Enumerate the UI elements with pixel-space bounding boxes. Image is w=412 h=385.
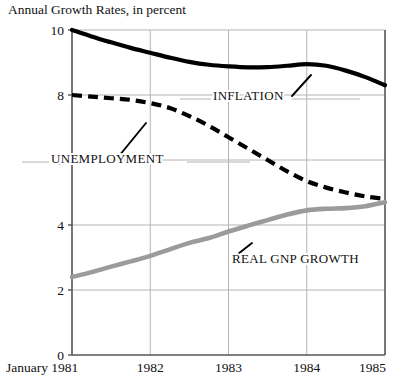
x-tick-label: January 1981 bbox=[6, 360, 78, 375]
x-tick-label: 1983 bbox=[215, 360, 242, 375]
chart-title: Annual Growth Rates, in percent bbox=[8, 2, 186, 17]
y-tick-label: 4 bbox=[57, 218, 64, 233]
y-tick-label: 8 bbox=[57, 88, 64, 103]
x-tick-label: 1982 bbox=[137, 360, 164, 375]
x-tick-label: 1984 bbox=[293, 360, 320, 375]
series-label-unemployment: UNEMPLOYMENT bbox=[51, 151, 164, 166]
x-tick-label: 1985 bbox=[359, 360, 386, 375]
y-tick-label: 10 bbox=[51, 23, 65, 38]
chart-background bbox=[0, 0, 412, 385]
series-label-inflation: INFLATION bbox=[213, 88, 284, 103]
y-tick-label: 2 bbox=[57, 283, 64, 298]
chart-container: Annual Growth Rates, in percent 0246810 … bbox=[0, 0, 412, 385]
series-label-real-gnp-growth: REAL GNP GROWTH bbox=[232, 251, 359, 266]
annual-growth-rates-chart: Annual Growth Rates, in percent 0246810 … bbox=[0, 0, 412, 385]
